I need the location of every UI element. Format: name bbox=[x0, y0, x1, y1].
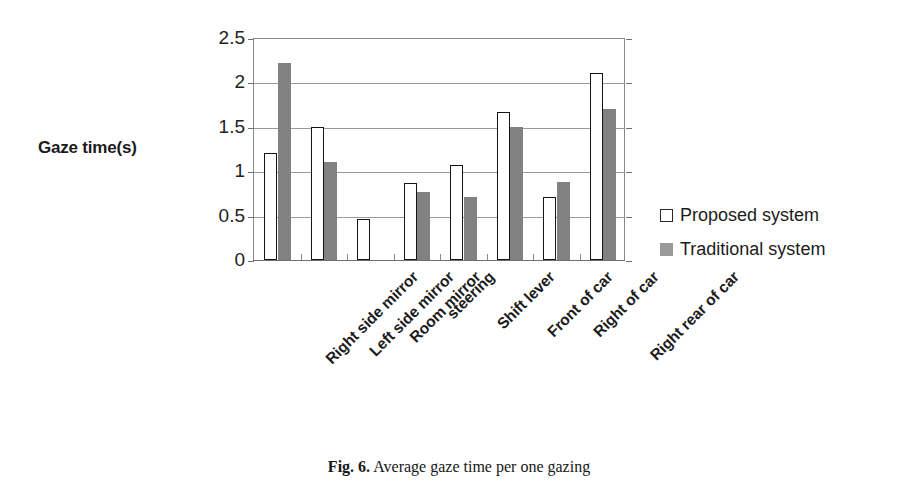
y-axis-tick-mark-right bbox=[626, 39, 632, 40]
bar-traditional bbox=[603, 109, 616, 260]
legend-label: Traditional system bbox=[680, 239, 825, 260]
y-axis-tick-mark bbox=[248, 39, 254, 40]
bar-proposed bbox=[543, 197, 556, 260]
legend-item: Traditional system bbox=[660, 232, 910, 266]
legend-label: Proposed system bbox=[680, 205, 819, 226]
bar-traditional bbox=[278, 63, 291, 260]
bar-proposed bbox=[264, 153, 277, 260]
y-axis-title: Gaze time(s) bbox=[38, 138, 188, 158]
bar-traditional bbox=[417, 192, 430, 260]
gridline bbox=[254, 128, 624, 129]
y-axis-tick-label: 1 bbox=[185, 160, 245, 182]
y-axis-tick-label: 0.5 bbox=[185, 205, 245, 227]
y-axis-tick-mark bbox=[248, 217, 254, 218]
gridline bbox=[254, 83, 624, 84]
bar-traditional bbox=[464, 197, 477, 260]
bar-proposed bbox=[404, 183, 417, 260]
y-axis-tick-mark bbox=[248, 128, 254, 129]
y-axis-tick-label: 1.5 bbox=[185, 116, 245, 138]
y-axis-tick-label: 2.5 bbox=[185, 27, 245, 49]
figure-caption-text: Average gaze time per one gazing bbox=[373, 458, 590, 475]
figure-caption: Fig. 6. Average gaze time per one gazing bbox=[0, 458, 918, 476]
y-axis-tick-label: 0 bbox=[185, 249, 245, 271]
y-axis-tick-mark bbox=[248, 83, 254, 84]
y-axis-tick-labels: 2.521.510.50 bbox=[183, 38, 245, 260]
bar-proposed bbox=[357, 219, 370, 260]
y-axis-tick-mark-right bbox=[626, 128, 632, 129]
y-axis-tick-mark-right bbox=[626, 217, 632, 218]
bar-traditional bbox=[557, 182, 570, 260]
x-axis-category-labels: Right side mirrorLeft side mirrorRoom mi… bbox=[253, 262, 683, 437]
legend-item: Proposed system bbox=[660, 198, 910, 232]
y-axis-tick-mark bbox=[248, 172, 254, 173]
plot-area bbox=[253, 38, 625, 260]
legend-swatch-icon bbox=[660, 243, 673, 256]
bar-traditional bbox=[510, 127, 523, 260]
figure-container: Gaze time(s) 2.521.510.50 Right side mir… bbox=[0, 0, 918, 486]
bar-proposed bbox=[497, 112, 510, 260]
bar-proposed bbox=[311, 127, 324, 260]
gridline bbox=[254, 172, 624, 173]
legend-swatch-icon bbox=[660, 209, 673, 222]
y-axis-tick-mark-right bbox=[626, 172, 632, 173]
bar-traditional bbox=[324, 162, 337, 260]
y-axis-tick-mark-right bbox=[626, 83, 632, 84]
y-axis-tick-label: 2 bbox=[185, 71, 245, 93]
bar-proposed bbox=[590, 73, 603, 260]
x-axis-baseline bbox=[253, 260, 625, 261]
figure-number-label: Fig. 6. bbox=[328, 458, 370, 475]
bar-proposed bbox=[450, 165, 463, 260]
chart-legend: Proposed systemTraditional system bbox=[660, 198, 910, 266]
